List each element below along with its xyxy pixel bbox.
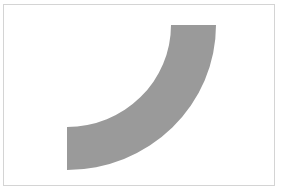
footer-strip	[0, 187, 283, 194]
quarter-annulus-shape	[67, 25, 216, 170]
diagram-canvas	[0, 0, 283, 194]
